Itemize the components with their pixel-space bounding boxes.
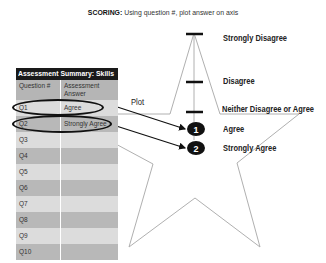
arrow-q2 (110, 124, 185, 148)
svg-text:2: 2 (193, 144, 198, 154)
table-title: Assessment Summary: Skills (16, 68, 118, 80)
table-row: Q4 (16, 148, 118, 164)
table-row: Q3 (16, 132, 118, 148)
assessment-summary-table: Assessment Summary: Skills Question # As… (16, 68, 118, 260)
table-row: Q5 (16, 164, 118, 180)
table-header: Question # Assessment Answer (16, 80, 118, 100)
marker-2: 2 (187, 141, 205, 155)
table-row: Q10 (16, 244, 118, 260)
highlight-q1-ellipse (12, 99, 104, 116)
table-row: Q8 (16, 212, 118, 228)
label-strongly-agree: Strongly Agree (223, 143, 276, 153)
table-row: Q7 (16, 196, 118, 212)
svg-text:1: 1 (193, 125, 198, 135)
label-strongly-disagree: Strongly Disagree (223, 33, 287, 43)
marker-1: 1 (187, 122, 205, 136)
table-row: Q9 (16, 228, 118, 244)
label-neither: Neither Disagree or Agree (222, 104, 314, 114)
label-disagree: Disagree (223, 76, 255, 86)
plot-label: Plot (131, 97, 144, 107)
label-agree: Agree (223, 124, 244, 134)
header-answer: Assessment Answer (61, 80, 118, 100)
highlight-q2-ellipse (12, 115, 112, 133)
header-question: Question # (16, 80, 61, 100)
table-row: Q6 (16, 180, 118, 196)
